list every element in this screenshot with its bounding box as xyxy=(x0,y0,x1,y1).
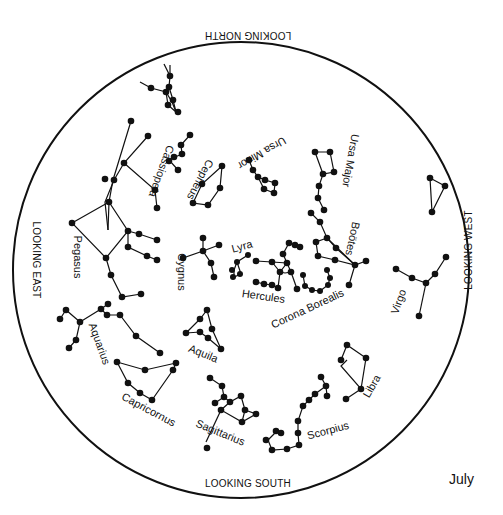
constellation-bootes: Boötes xyxy=(308,210,370,289)
constellation-aquarius: Aquarius xyxy=(57,301,164,367)
label-aquila: Aquila xyxy=(187,342,221,365)
constellation-ursa-minor: Ursa Minor xyxy=(235,135,288,196)
direction-west-label: LOOKING WEST xyxy=(463,210,474,290)
label-ursa-minor: Ursa Minor xyxy=(235,135,288,172)
constellation-top-cluster xyxy=(140,64,181,115)
label-capricornus: Capricornus xyxy=(120,390,178,429)
constellation-cepheus: Cepheus xyxy=(185,158,226,209)
label-cassiopeia: Cassiopeia xyxy=(147,144,177,200)
constellation-pegasus: Pegasus xyxy=(69,199,161,301)
label-scorpius: Scorpius xyxy=(306,419,351,442)
constellation-libra: Libra xyxy=(338,342,384,403)
label-ursa-major: Ursa Major xyxy=(340,133,361,188)
constellation-virgo: Virgo xyxy=(388,254,449,320)
star-chart: LOOKING NORTH LOOKING SOUTH LOOKING EAST… xyxy=(0,0,503,515)
label-cepheus: Cepheus xyxy=(185,158,217,203)
constellation-cassiopeia: Cassiopeia xyxy=(102,118,177,230)
month-label: July xyxy=(449,471,474,487)
constellation-aquila: Aquila xyxy=(183,307,225,365)
label-lyra: Lyra xyxy=(230,237,254,254)
constellation-lyra: Lyra xyxy=(229,237,255,280)
label-aquarius: Aquarius xyxy=(87,321,113,366)
constellation-cygnus: Cygnus xyxy=(176,235,222,291)
constellation-scorpius: Scorpius xyxy=(263,374,351,454)
label-cygnus: Cygnus xyxy=(176,253,188,291)
constellation-capricornus: Capricornus xyxy=(114,359,180,429)
direction-east-label: LOOKING EAST xyxy=(31,222,42,299)
constellation-leo-fragment xyxy=(427,175,449,216)
direction-north-label: LOOKING NORTH xyxy=(205,30,291,41)
constellation-ursa-major: Ursa Major xyxy=(312,133,362,213)
label-bootes: Boötes xyxy=(343,221,362,257)
constellation-sagittarius: Sagittarius xyxy=(194,375,259,452)
label-virgo: Virgo xyxy=(388,288,408,316)
direction-south-label: LOOKING SOUTH xyxy=(205,478,291,489)
label-pegasus: Pegasus xyxy=(72,236,84,279)
